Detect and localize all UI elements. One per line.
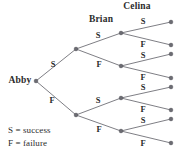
probability-tree-diagram: AbbyBrianCelinaSFSFSFSFSFSFSFS = success… bbox=[0, 0, 178, 158]
tree-node-n-sff bbox=[169, 76, 173, 80]
edge-label-e-fs-fss: S bbox=[141, 83, 146, 92]
edge-label-e-sf-sff: F bbox=[140, 73, 145, 82]
tree-node-n-fsf bbox=[169, 108, 173, 112]
tree-edge-e-sf-sfs bbox=[121, 54, 171, 66]
tree-edge-e-ss-sss bbox=[121, 22, 171, 33]
tree-node-n-fs bbox=[119, 96, 123, 100]
header-brian: Brian bbox=[89, 15, 113, 25]
tree-edge-e-root-s bbox=[36, 49, 76, 81]
tree-node-n-sfs bbox=[169, 52, 173, 56]
tree-edge-e-sf-sff bbox=[121, 66, 171, 78]
edge-label-e-ss-sss: S bbox=[141, 17, 146, 26]
tree-node-n-sss bbox=[169, 20, 173, 24]
tree-edge-e-ss-ssf bbox=[121, 33, 171, 45]
tree-edge-e-fs-fss bbox=[121, 87, 171, 98]
header-celina: Celina bbox=[123, 2, 151, 12]
tree-node-n-root bbox=[34, 79, 38, 83]
edge-label-e-s-sf: F bbox=[96, 60, 101, 69]
edge-label-e-ff-fff: F bbox=[140, 139, 145, 148]
tree-edge-e-ff-ffs bbox=[121, 119, 171, 131]
edge-label-e-root-s: S bbox=[51, 60, 56, 69]
tree-edges bbox=[36, 22, 171, 143]
legend-success: S = success bbox=[8, 126, 51, 135]
edge-label-e-ff-ffs: S bbox=[141, 116, 146, 125]
edge-label-e-root-f: F bbox=[49, 96, 54, 105]
tree-edge-e-fs-fsf bbox=[121, 98, 171, 110]
edge-label-e-ss-ssf: F bbox=[140, 40, 145, 49]
tree-node-n-f bbox=[74, 113, 78, 117]
tree-node-n-fff bbox=[169, 141, 173, 145]
edge-label-e-f-ff: F bbox=[96, 125, 101, 134]
edge-label-e-f-fs: S bbox=[96, 96, 101, 105]
tree-node-n-s bbox=[74, 47, 78, 51]
root-label-abby: Abby bbox=[9, 76, 32, 86]
edge-label-e-fs-fsf: F bbox=[140, 105, 145, 114]
legend-failure: F = failure bbox=[8, 139, 47, 148]
tree-node-n-fss bbox=[169, 85, 173, 89]
tree-node-n-ss bbox=[119, 31, 123, 35]
tree-node-n-ssf bbox=[169, 43, 173, 47]
edge-label-e-sf-sfs: S bbox=[141, 51, 146, 60]
tree-node-n-sf bbox=[119, 64, 123, 68]
edge-label-e-s-ss: S bbox=[96, 31, 101, 40]
tree-edge-e-root-f bbox=[36, 81, 76, 115]
tree-node-n-ff bbox=[119, 129, 123, 133]
tree-edge-e-ff-fff bbox=[121, 131, 171, 143]
tree-node-n-ffs bbox=[169, 117, 173, 121]
